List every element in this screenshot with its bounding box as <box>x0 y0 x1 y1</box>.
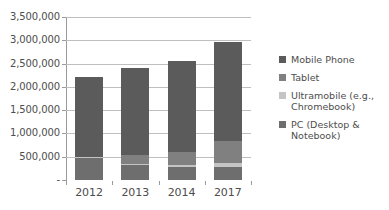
legend-swatch-icon <box>279 121 286 128</box>
x-axis-tick <box>159 181 160 185</box>
bar-segment <box>75 157 103 180</box>
x-axis-tick-label: 2012 <box>66 187 112 199</box>
legend-label: Tablet <box>291 72 319 83</box>
legend-swatch-icon <box>279 92 286 99</box>
y-axis-tick-label: 500,000 <box>2 152 60 162</box>
bar-segment <box>214 42 242 141</box>
bar-segment <box>214 163 242 167</box>
x-axis-tick-label: 2013 <box>112 187 158 199</box>
legend-swatch-icon <box>279 74 286 81</box>
x-axis-tick <box>66 181 67 185</box>
y-axis-labels: 3,500,0003,000,0002,500,0002,000,0001,50… <box>0 0 60 210</box>
bar-segment <box>121 155 149 164</box>
bar-group-2014 <box>168 17 196 180</box>
legend-item[interactable]: Ultramobile (e.g., Chromebook) <box>279 90 389 112</box>
bar-group-2013 <box>121 17 149 180</box>
legend-item[interactable]: Tablet <box>279 72 389 83</box>
y-axis-tick-label: 3,000,000 <box>2 35 60 45</box>
y-axis-tick-label: 1,000,000 <box>2 128 60 138</box>
legend: Mobile PhoneTabletUltramobile (e.g., Chr… <box>279 54 389 148</box>
x-axis-tick <box>251 181 252 185</box>
legend-swatch-icon <box>279 56 286 63</box>
bar-segment <box>214 167 242 180</box>
bar-segment <box>214 141 242 163</box>
bar-segment <box>168 152 196 165</box>
y-axis-tick-label: 2,000,000 <box>2 82 60 92</box>
bar-segment <box>121 165 149 180</box>
legend-item[interactable]: Mobile Phone <box>279 54 389 65</box>
bar-segment <box>121 164 149 165</box>
x-axis-tick <box>205 181 206 185</box>
legend-label: PC (Desktop & Notebook) <box>291 119 360 141</box>
bar-segment <box>75 77 103 157</box>
stacked-bar-chart: 3,500,0003,000,0002,500,0002,000,0001,50… <box>0 0 389 210</box>
y-axis-tick-label: 1,500,000 <box>2 105 60 115</box>
x-axis-tick-label: 2014 <box>159 187 205 199</box>
y-axis-tick-label: 2,500,000 <box>2 59 60 69</box>
bar-group-2017 <box>214 17 242 180</box>
legend-label: Mobile Phone <box>291 54 355 65</box>
legend-item[interactable]: PC (Desktop & Notebook) <box>279 119 389 141</box>
legend-label: Ultramobile (e.g., Chromebook) <box>291 90 374 112</box>
bar-segment <box>121 68 149 155</box>
x-axis-tick <box>112 181 113 185</box>
x-axis-tick-label: 2017 <box>205 187 251 199</box>
bar-segment <box>168 167 196 180</box>
bar-segment <box>168 165 196 167</box>
y-axis-tick-label: 3,500,000 <box>2 12 60 22</box>
y-axis-tick-label: - <box>2 175 60 185</box>
plot-area <box>66 17 251 180</box>
bar-segment <box>168 61 196 152</box>
bar-group-2012 <box>75 17 103 180</box>
